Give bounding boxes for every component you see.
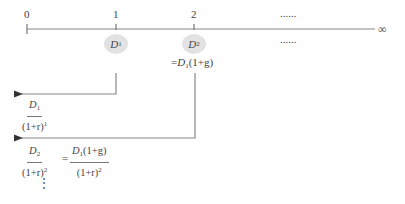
ellipsis-bottom: ...... bbox=[280, 33, 297, 45]
d2-base: D bbox=[188, 38, 196, 50]
pv-d2-growth-denominator: (1+r)2 bbox=[77, 163, 102, 179]
expr-rest: (1+g) bbox=[189, 56, 214, 68]
continuation-ellipsis: ⋮ bbox=[38, 176, 50, 191]
d1-base: D bbox=[110, 38, 118, 50]
discount-arrow-d1 bbox=[22, 73, 116, 94]
d2-growth-expression: =D1(1+g) bbox=[171, 56, 213, 70]
infinity-label: ∞ bbox=[378, 22, 387, 37]
tick-label-2: 2 bbox=[191, 8, 197, 20]
tick-label-0: 0 bbox=[24, 8, 30, 20]
discount-arrow-d2 bbox=[22, 73, 195, 138]
cash-flow-d1: D1 bbox=[104, 34, 128, 54]
ellipsis-top: ...... bbox=[280, 7, 297, 19]
pv-d1-numerator: D1 bbox=[27, 98, 42, 117]
pv-d2-growth-numerator: D1(1+g) bbox=[70, 144, 109, 163]
pv-d1-fraction: D1 (1+r)1 bbox=[22, 98, 47, 133]
pv-d2-fraction: D2 (1+r)2 bbox=[22, 144, 47, 179]
expr-base: D bbox=[177, 56, 185, 68]
pv-d2-numerator: D2 bbox=[27, 144, 42, 163]
cash-flow-d2: D2 bbox=[182, 34, 206, 54]
d1-sub: 1 bbox=[118, 40, 122, 48]
tick-label-1: 1 bbox=[113, 8, 119, 20]
pv-d1-denominator: (1+r)1 bbox=[22, 117, 47, 133]
pv-d2-equals: = bbox=[62, 152, 68, 164]
d2-sub: 2 bbox=[196, 40, 200, 48]
diagram-lines bbox=[0, 0, 405, 204]
pv-d2-growth-fraction: D1(1+g) (1+r)2 bbox=[70, 144, 109, 179]
